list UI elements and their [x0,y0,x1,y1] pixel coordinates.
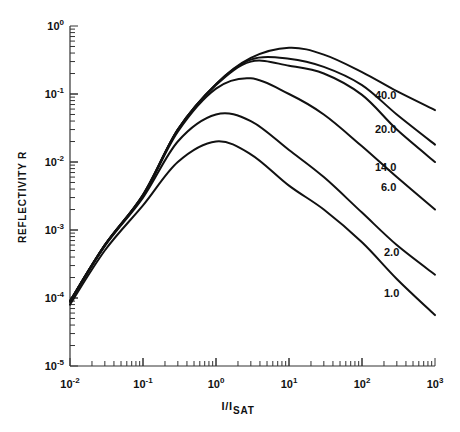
x-axis-label-subscript: SAT [233,405,255,416]
y-tick-label: 10-1 [45,86,65,100]
curve-2-0 [70,113,435,302]
x-tick-label: 102 [354,376,371,390]
y-tick-label: 100 [47,18,64,32]
x-tick-label: 101 [281,376,298,390]
series-label-20-0: 20.0 [375,123,396,135]
x-axis-label: I/ISAT [221,400,254,416]
x-tick-label: 103 [427,376,444,390]
series-label-14-0: 14.0 [375,161,396,173]
x-tick-label: 10-2 [60,376,80,390]
x-axis-ticks [70,358,435,366]
series-label-1-0: 1.0 [384,287,399,299]
series-label-6-0: 6.0 [381,181,396,193]
reflectivity-chart: 10010-110-210-310-410-5 10-210-110010110… [0,0,460,432]
y-tick-label: 10-5 [45,358,65,372]
y-axis-tick-labels: 10010-110-210-310-410-5 [45,18,65,372]
x-axis-tick-labels: 10-210-1100101102103 [60,376,444,390]
y-tick-label: 10-3 [45,222,65,236]
series-label-2-0: 2.0 [384,246,399,258]
x-tick-label: 100 [208,376,225,390]
axes [70,26,435,366]
y-tick-label: 10-2 [45,154,65,168]
y-tick-label: 10-4 [45,290,65,304]
y-axis-label: REFLECTIVITY R [17,151,28,243]
curve-40-0 [70,48,435,301]
series-label-40-0: 40.0 [375,89,396,101]
x-axis-label-main: I/I [221,400,233,412]
y-axis-ticks [70,26,78,366]
x-tick-label: 10-1 [133,376,153,390]
